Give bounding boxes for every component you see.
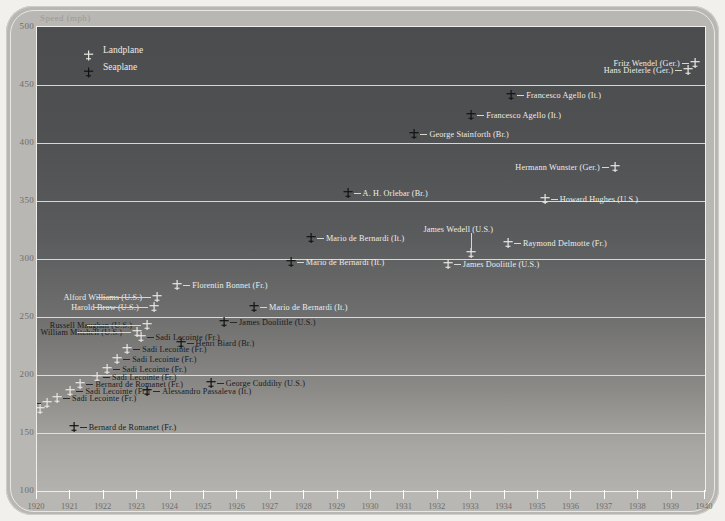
leader-line — [94, 307, 148, 308]
data-marker — [409, 128, 420, 139]
x-tick-label-1927: 1927 — [261, 501, 278, 511]
y-tick-label-450: 450 — [8, 79, 34, 89]
leader-line — [217, 383, 224, 384]
data-marker — [609, 162, 620, 173]
x-tick-label-1930: 1930 — [362, 501, 379, 511]
leader-line — [477, 115, 484, 116]
x-tick-label-1935: 1935 — [529, 501, 546, 511]
x-tick-1937 — [604, 490, 605, 499]
y-tick-label-350: 350 — [8, 195, 34, 205]
data-marker — [342, 187, 353, 198]
legend-label-landplane: Landplane — [103, 45, 143, 55]
data-point-label: Hermann Wunster (Ger.) — [515, 163, 599, 172]
x-tick-1925 — [203, 490, 204, 499]
leader-line — [354, 193, 361, 194]
data-point-label: Raymond Delmotte (Fr.) — [523, 238, 607, 247]
y-tick-label-500: 500 — [8, 21, 34, 31]
leader-line — [76, 391, 83, 392]
data-point-label: Hans Dieterle (Ger.) — [604, 65, 674, 74]
data-point-label: Sadi Lecointe (Fr.) — [72, 394, 136, 403]
leader-line — [153, 391, 160, 392]
leader-line — [230, 322, 237, 323]
x-tick-label-1934: 1934 — [495, 501, 512, 511]
x-tick-label-1936: 1936 — [562, 501, 579, 511]
gridline-400 — [37, 143, 705, 144]
data-marker — [466, 110, 477, 121]
data-point-label: Mario de Bernardi (It.) — [326, 234, 404, 243]
leader-line — [602, 167, 609, 168]
x-tick-1933 — [470, 490, 471, 499]
data-marker — [142, 320, 153, 331]
x-tick-1936 — [570, 490, 571, 499]
data-point-label: A. H. Orlebar (Br.) — [363, 188, 428, 197]
leader-line — [420, 134, 427, 135]
y-tick-label-250: 250 — [8, 311, 34, 321]
data-marker — [502, 237, 513, 248]
data-point-label: Mario de Bernardi (It.) — [269, 302, 347, 311]
data-marker — [442, 258, 453, 269]
x-tick-1931 — [403, 490, 404, 499]
data-marker — [75, 379, 86, 390]
leader-line — [133, 349, 140, 350]
data-marker — [285, 257, 296, 268]
x-tick-label-1921: 1921 — [61, 501, 78, 511]
leader-line — [77, 332, 131, 333]
data-point-label: Francesco Agello (It.) — [486, 111, 561, 120]
x-tick-1922 — [103, 490, 104, 499]
leader-line — [63, 398, 70, 399]
leader-line — [514, 243, 521, 244]
x-tick-label-1932: 1932 — [428, 501, 445, 511]
data-marker — [68, 422, 79, 433]
x-tick-label-1929: 1929 — [328, 501, 345, 511]
leader-line — [187, 343, 194, 344]
x-tick-1923 — [136, 490, 137, 499]
leader-line — [675, 70, 682, 71]
leader-line — [103, 377, 110, 378]
y-axis-title: Speed (mph) — [40, 13, 91, 23]
data-marker — [175, 337, 186, 348]
data-point-label: Howard Hughes (U.S.) — [560, 194, 639, 203]
data-marker — [102, 364, 113, 375]
y-tick-label-300: 300 — [8, 253, 34, 263]
x-tick-label-1926: 1926 — [228, 501, 245, 511]
data-marker — [36, 403, 46, 414]
x-tick-label-1939: 1939 — [662, 501, 679, 511]
x-tick-label-1920: 1920 — [28, 501, 45, 511]
leader-line — [517, 95, 524, 96]
x-axis: 1920192119221923192419251926192719281929… — [36, 490, 706, 520]
data-marker — [219, 316, 230, 327]
leader-line — [87, 325, 141, 326]
y-tick-label-150: 150 — [8, 427, 34, 437]
leader-line — [297, 262, 304, 263]
data-marker — [172, 279, 183, 290]
x-tick-1921 — [69, 490, 70, 499]
x-tick-1930 — [370, 490, 371, 499]
x-tick-label-1933: 1933 — [462, 501, 479, 511]
gridline-150 — [37, 433, 705, 434]
x-tick-label-1938: 1938 — [629, 501, 646, 511]
leader-line — [260, 307, 267, 308]
x-tick-label-1940: 1940 — [696, 501, 713, 511]
leader-line — [551, 199, 558, 200]
x-tick-1938 — [637, 490, 638, 499]
leader-line — [471, 233, 472, 251]
chart-page: Speed (mph) Fritz Wendel (Ger.)Hans Diet… — [0, 0, 725, 521]
y-tick-label-400: 400 — [8, 137, 34, 147]
x-tick-1924 — [170, 490, 171, 499]
data-marker — [122, 344, 133, 355]
x-tick-1920 — [36, 490, 37, 499]
x-tick-1940 — [704, 490, 705, 499]
data-marker — [683, 64, 694, 75]
leader-line — [317, 238, 324, 239]
data-point-label: James Doolittle (U.S.) — [239, 317, 316, 326]
leader-line — [454, 264, 461, 265]
seaplane-icon — [83, 64, 94, 75]
y-tick-label-200: 200 — [8, 369, 34, 379]
x-tick-label-1922: 1922 — [94, 501, 111, 511]
y-tick-label-100: 100 — [8, 485, 34, 495]
data-marker — [539, 193, 550, 204]
data-point-label: Florentin Bonnet (Fr.) — [192, 280, 267, 289]
x-tick-label-1924: 1924 — [161, 501, 178, 511]
x-tick-label-1925: 1925 — [195, 501, 212, 511]
x-tick-1934 — [504, 490, 505, 499]
